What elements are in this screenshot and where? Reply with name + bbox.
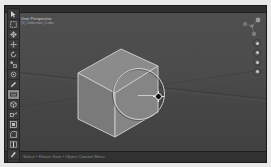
zoom-button[interactable]: Zoom View [253, 39, 261, 47]
status-bar-hints: Select • Rotate View • Object Context Me… [23, 154, 105, 159]
knife-icon [10, 151, 17, 158]
knife-tool[interactable] [8, 150, 19, 160]
annotate-tool[interactable] [8, 80, 19, 90]
measure-tool[interactable] [8, 90, 19, 100]
extrude-icon [10, 111, 17, 118]
ruler-icon [10, 91, 17, 98]
move-view-button[interactable]: Move View [253, 49, 261, 57]
tool-shelf[interactable] [7, 8, 20, 163]
select-box-tool[interactable] [8, 20, 19, 30]
bevel-tool[interactable] [8, 130, 19, 140]
select-box-icon [10, 21, 17, 28]
loop-cut-icon [10, 141, 17, 148]
move-arrows-icon [10, 41, 17, 48]
rotate-icon [10, 51, 17, 58]
rotate-tool[interactable] [8, 50, 19, 60]
inset-icon [10, 121, 17, 128]
viewport-control-buttons: Zoom View Move View Camera View Toggle P… [253, 39, 261, 76]
viewport-collection-info: (1) Collection | Cube [21, 21, 54, 26]
tweak-tool[interactable] [8, 10, 19, 20]
application-window: Layout [4, 5, 267, 163]
crosshair-icon [10, 31, 17, 38]
extrude-tool[interactable] [8, 110, 19, 120]
spin-icon [10, 161, 17, 163]
bevel-icon [10, 131, 17, 138]
camera-view-button[interactable]: Camera View [253, 58, 261, 66]
cube-plus-icon [10, 101, 17, 108]
3d-viewport[interactable]: User Perspective (1) Collection | Cube N… [5, 13, 266, 151]
scale-tool[interactable] [8, 60, 19, 70]
loop-cut-tool[interactable] [8, 140, 19, 150]
move-crosshair-cursor [153, 91, 164, 102]
status-bar: Select • Rotate View • Object Context Me… [5, 151, 266, 162]
viewport-info-overlay: User Perspective (1) Collection | Cube [21, 16, 54, 26]
navigation-gizmo[interactable]: Navigation Gizmo [241, 15, 263, 37]
inset-faces-tool[interactable] [8, 120, 19, 130]
topbar: Layout [5, 6, 266, 13]
cursor-arrow-icon [10, 11, 17, 18]
transform-icon [10, 71, 17, 78]
scale-icon [10, 61, 17, 68]
add-cube-tool[interactable] [8, 100, 19, 110]
transform-tool[interactable] [8, 70, 19, 80]
pencil-icon [10, 81, 17, 88]
move-tool[interactable] [8, 40, 19, 50]
spin-tool[interactable] [8, 160, 19, 163]
toggle-ortho-button[interactable]: Toggle Perspective/Orthographic [253, 68, 261, 76]
screenshot-root: Layout [0, 0, 271, 167]
cursor-tool[interactable] [8, 30, 19, 40]
